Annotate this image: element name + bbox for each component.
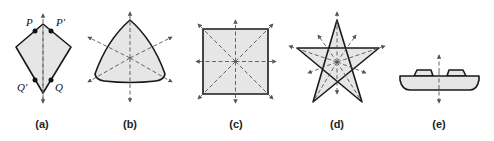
caption-a: (a) xyxy=(35,118,49,130)
label-p: P xyxy=(25,16,33,28)
point-q-dot xyxy=(49,78,54,83)
label-p-prime: P′ xyxy=(55,16,66,28)
right-tab xyxy=(447,70,466,76)
caption-c: (c) xyxy=(229,118,243,130)
caption-b: (b) xyxy=(123,118,137,130)
point-p-dot xyxy=(33,29,38,34)
plate-shape xyxy=(400,76,479,90)
panel-b-curved-triangle: (b) xyxy=(88,12,172,130)
symmetry-figure: P P′ Q′ Q (a) (b) (c) xyxy=(0,0,494,141)
caption-e: (e) xyxy=(432,118,446,130)
panel-e-plate: (e) xyxy=(400,55,479,130)
panel-d-pentagram: (d) xyxy=(289,12,385,130)
label-q-prime: Q′ xyxy=(17,81,28,93)
panel-a-kite: P P′ Q′ Q (a) xyxy=(16,14,71,130)
point-q-prime-dot xyxy=(33,78,38,83)
panel-c-square: (c) xyxy=(196,20,276,130)
caption-d: (d) xyxy=(330,118,344,130)
left-tab xyxy=(414,70,433,76)
label-q: Q xyxy=(55,81,63,93)
point-p-prime-dot xyxy=(49,29,54,34)
